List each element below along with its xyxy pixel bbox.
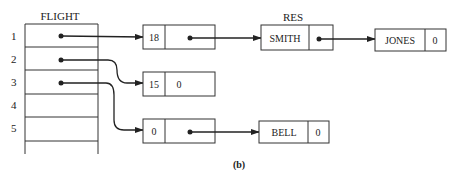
res-node-smith: SMITH [261, 25, 333, 50]
node-value: 18 [149, 32, 159, 43]
flight-node-0: 0 [143, 119, 215, 143]
res-name: SMITH [269, 33, 300, 44]
res-node-bell: BELL 0 [259, 121, 329, 143]
row-label-3: 3 [11, 76, 17, 88]
res-label: RES [283, 11, 303, 23]
flight-node-18: 18 [143, 25, 215, 49]
row-label-2: 2 [11, 53, 17, 65]
row-label-1: 1 [11, 30, 17, 42]
node-next: 0 [177, 79, 182, 90]
arrow-row3-to-0 [61, 83, 143, 130]
flight-node-15: 15 0 [143, 72, 215, 96]
res-next: 0 [433, 35, 438, 46]
res-name: BELL [272, 127, 297, 138]
flight-table: FLIGHT 1 2 3 4 5 [11, 10, 98, 154]
row-label-4: 4 [11, 99, 17, 111]
linked-list-diagram: FLIGHT 1 2 3 4 5 18 RES SMITH [0, 0, 454, 170]
figure-caption: (b) [233, 159, 245, 170]
arrow-row1-to-18 [61, 36, 143, 37]
flight-title: FLIGHT [40, 10, 79, 22]
node-value: 0 [152, 126, 157, 137]
arrow-row2-to-15 [61, 60, 143, 83]
res-name: JONES [385, 35, 415, 46]
row-label-5: 5 [11, 122, 17, 134]
res-next: 0 [316, 127, 321, 138]
res-node-jones: JONES 0 [375, 29, 446, 51]
node-value: 15 [149, 79, 159, 90]
